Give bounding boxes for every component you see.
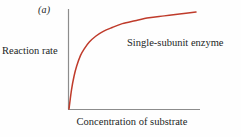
enzyme-kinetics-figure: (a) Reaction rate Concentration of subst…	[0, 0, 241, 137]
plot-area	[0, 0, 241, 137]
curve-single-subunit-enzyme	[69, 12, 196, 109]
